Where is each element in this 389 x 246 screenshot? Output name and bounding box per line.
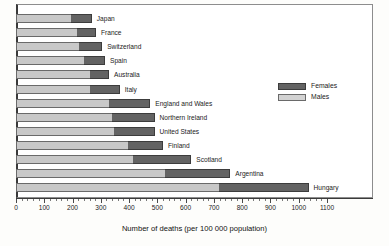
x-tick-minor [39,199,40,201]
bar-row [16,42,102,51]
bar-row [16,113,155,122]
bar-row [16,85,120,94]
x-tick-minor [22,199,23,201]
bar-row [16,183,309,192]
bar-category-label: Finland [168,141,190,150]
x-tick-major [327,199,328,203]
x-tick-label: 600 [180,204,191,211]
x-tick-major [242,199,243,203]
x-tick-major [214,199,215,203]
bar-segment-males [16,85,90,94]
bar-row [16,14,92,23]
x-tick-minor [208,199,209,201]
bar-row [16,56,105,65]
bar-segment-females [90,70,109,79]
bar-segment-males [16,70,90,79]
bar-category-label: Argentina [235,169,263,178]
x-tick-minor [163,199,164,201]
x-tick-major [44,199,45,203]
x-tick-major [129,199,130,203]
x-tick-minor [146,199,147,201]
x-tick-label: 400 [124,204,135,211]
bar-row [16,28,96,37]
bar-segment-females [90,85,120,94]
x-tick-major [16,199,17,203]
legend-label-females: Females [311,82,337,90]
x-axis-line [16,198,373,199]
bar-category-label: England and Wales [155,99,212,108]
x-tick-minor [293,199,294,201]
bar-category-label: Italy [125,85,137,94]
bar-segment-males [16,169,165,178]
legend-item-females: Females [278,82,337,90]
bar-segment-females [114,127,154,136]
x-tick-minor [248,199,249,201]
legend-label-males: Males [311,93,329,101]
x-tick-label: 500 [152,204,163,211]
x-tick-label: 0 [14,204,18,211]
bar-segment-females [128,141,163,150]
x-tick-minor [276,199,277,201]
x-tick-label: 1100 [320,204,334,211]
x-tick-label: 800 [237,204,248,211]
x-tick-minor [56,199,57,201]
x-tick-minor [90,199,91,201]
bar-segment-females [112,113,154,122]
bar-segment-males [16,28,77,37]
x-tick-major [101,199,102,203]
bar-row [16,70,109,79]
x-tick-minor [50,199,51,201]
bar-category-label: Scotland [196,155,222,164]
legend-item-males: Males [278,93,337,101]
x-tick-label: 1000 [291,204,306,211]
x-tick-minor [112,199,113,201]
bar-segment-females [79,42,102,51]
bar-category-label: Hungary [314,183,339,192]
x-tick-minor [310,199,311,201]
bar-segment-males [16,141,128,150]
bar-category-label: United States [160,127,200,136]
x-tick-minor [316,199,317,201]
x-tick-minor [95,199,96,201]
bar-category-label: Japan [97,14,115,23]
x-tick-minor [67,199,68,201]
bar-row [16,141,163,150]
x-axis-label: Number of deaths (per 100 000 population… [0,224,389,233]
x-tick-label: 900 [265,204,276,211]
x-tick-minor [304,199,305,201]
bar-row [16,127,155,136]
x-tick-label: 700 [208,204,219,211]
x-tick-minor [265,199,266,201]
x-tick-minor [118,199,119,201]
x-tick-label: 200 [67,204,78,211]
bar-segment-females [133,155,191,164]
x-tick-minor [220,199,221,201]
bar-segment-males [16,14,71,23]
bar-segment-males [16,183,219,192]
legend-swatch-females-icon [278,83,306,90]
x-tick-minor [123,199,124,201]
bar-segment-males [16,56,84,65]
bar-segment-females [84,56,105,65]
x-tick-minor [78,199,79,201]
x-tick-minor [140,199,141,201]
bar-segment-females [71,14,92,23]
x-tick-minor [225,199,226,201]
bar-segment-females [109,99,150,108]
bar-segment-females [77,28,96,37]
bar-category-label: Australia [114,70,140,79]
x-tick-minor [191,199,192,201]
x-tick-minor [321,199,322,201]
x-tick-minor [237,199,238,201]
bar-category-label: Spain [110,56,127,65]
x-tick-minor [152,199,153,201]
x-tick-minor [174,199,175,201]
x-tick-minor [197,199,198,201]
x-tick-major [73,199,74,203]
chart-legend: Females Males [278,82,337,104]
x-tick-minor [203,199,204,201]
x-tick-minor [61,199,62,201]
x-tick-minor [259,199,260,201]
bar-segment-females [219,183,309,192]
bar-row [16,169,230,178]
